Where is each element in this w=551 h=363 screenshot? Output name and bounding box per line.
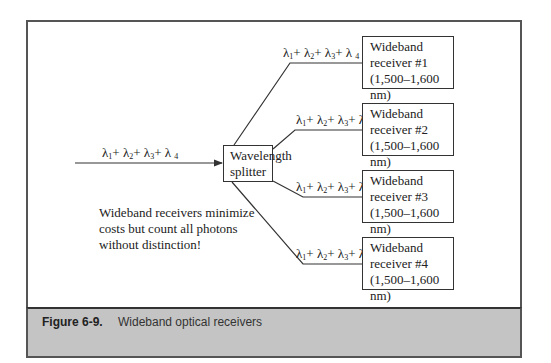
receiver-title: Wideband bbox=[370, 39, 453, 55]
receiver-title: Wideband bbox=[370, 173, 453, 189]
branch-label-3: λ1+ λ2+ λ3+ λ 4 bbox=[296, 179, 372, 195]
receiver-id: receiver #1 bbox=[370, 55, 453, 71]
note-line: Wideband receivers minimize bbox=[99, 205, 289, 221]
receiver-box-3: Wideband receiver #3 (1,500–1,600 nm) bbox=[362, 170, 454, 223]
figure-caption-bar: Figure 6-9. Wideband optical receivers bbox=[26, 307, 522, 358]
branch-line-1 bbox=[234, 63, 362, 145]
branch-label-1: λ1+ λ2+ λ3+ λ 4 bbox=[283, 45, 359, 61]
receiver-box-1: Wideband receiver #1 (1,500–1,600 nm) bbox=[362, 36, 454, 89]
receiver-box-4: Wideband receiver #4 (1,500–1,600 nm) bbox=[362, 237, 454, 290]
receiver-range: (1,500–1,600 nm) bbox=[370, 138, 453, 170]
annotation-note: Wideband receivers minimize costs but co… bbox=[99, 205, 289, 253]
receiver-box-2: Wideband receiver #2 (1,500–1,600 nm) bbox=[362, 103, 454, 156]
receiver-range: (1,500–1,600 nm) bbox=[370, 205, 453, 237]
receiver-id: receiver #4 bbox=[370, 256, 453, 272]
note-line: without distinction! bbox=[99, 237, 289, 253]
receiver-id: receiver #2 bbox=[370, 122, 453, 138]
splitter-line2: splitter bbox=[230, 164, 272, 180]
branch-line-2 bbox=[273, 130, 362, 149]
wavelength-splitter-box: Wavelength splitter bbox=[223, 145, 273, 182]
receiver-title: Wideband bbox=[370, 240, 453, 256]
receiver-range: (1,500–1,600 nm) bbox=[370, 71, 453, 103]
receiver-id: receiver #3 bbox=[370, 189, 453, 205]
splitter-line1: Wavelength bbox=[230, 148, 272, 164]
note-line: costs but count all photons bbox=[99, 221, 289, 237]
receiver-title: Wideband bbox=[370, 106, 453, 122]
receiver-range: (1,500–1,600 nm) bbox=[370, 272, 453, 304]
figure-number: Figure 6-9. bbox=[42, 315, 103, 329]
input-wavelength-label: λ1+ λ2+ λ3+ λ 4 bbox=[102, 145, 178, 161]
branch-label-2: λ1+ λ2+ λ3+ λ 4 bbox=[296, 112, 372, 128]
figure-caption: Wideband optical receivers bbox=[118, 315, 262, 329]
branch-label-4: λ1+ λ2+ λ3+ λ 4 bbox=[296, 246, 372, 262]
